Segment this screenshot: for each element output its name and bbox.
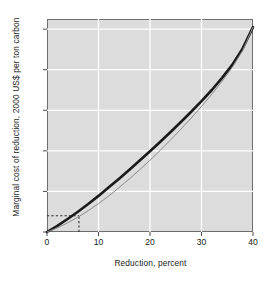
x-axis-label: Reduction, percent xyxy=(47,258,254,268)
x-tick-label-10: 10 xyxy=(86,237,112,247)
x-tick-label-0: 0 xyxy=(34,237,60,247)
figure-container: Marginal cost of reduction, 2000 US$ per… xyxy=(0,0,270,281)
x-tick-label-20: 20 xyxy=(137,237,163,247)
x-tick-label-40: 40 xyxy=(240,237,266,247)
plot-area xyxy=(47,19,253,232)
y-axis-label: Marginal cost of reduction, 2000 US$ per… xyxy=(11,10,21,224)
x-tick-label-30: 30 xyxy=(189,237,215,247)
